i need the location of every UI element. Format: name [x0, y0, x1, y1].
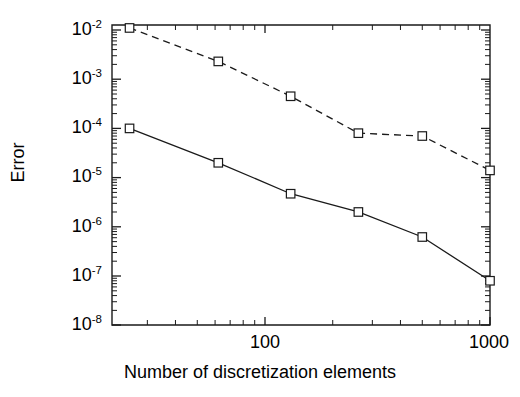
- data-point-marker: [486, 277, 495, 286]
- y-axis-minor-ticks: [112, 32, 490, 310]
- data-point-marker: [286, 92, 295, 101]
- x-axis-minor-ticks: [147, 25, 479, 325]
- x-axis-major-ticks: [265, 25, 490, 325]
- y-tick-label-3: 10-4: [36, 118, 102, 136]
- x-tick-label-100: 100: [238, 333, 292, 351]
- series-upper-dashed: [125, 24, 494, 175]
- data-point-marker: [486, 166, 495, 175]
- data-point-marker: [286, 189, 295, 198]
- data-point-marker: [214, 159, 223, 168]
- data-point-marker: [418, 233, 427, 242]
- y-tick-label-6: 10-7: [36, 266, 102, 284]
- x-axis-title: Number of discretization elements: [0, 362, 520, 383]
- data-point-marker: [354, 129, 363, 138]
- error-convergence-chart: 10-2 10-3 10-4 10-5 10-6 10-7 10-8 100 1…: [0, 0, 520, 397]
- plot-frame: [112, 25, 490, 325]
- y-tick-label-4: 10-5: [36, 167, 102, 185]
- y-axis-major-ticks: [112, 30, 490, 325]
- x-tick-label-1000: 1000: [458, 333, 520, 351]
- data-point-marker: [125, 124, 134, 132]
- series-path: [130, 128, 490, 280]
- series-lower-solid: [125, 124, 494, 285]
- data-point-marker: [418, 132, 427, 141]
- y-tick-label-5: 10-6: [36, 217, 102, 235]
- data-point-marker: [214, 57, 223, 66]
- y-tick-label-7: 10-8: [36, 315, 102, 333]
- y-axis-title: Error: [8, 123, 29, 203]
- data-point-marker: [354, 208, 363, 217]
- y-tick-label-1: 10-2: [36, 20, 102, 38]
- data-point-marker: [125, 24, 134, 33]
- y-tick-label-2: 10-3: [36, 69, 102, 87]
